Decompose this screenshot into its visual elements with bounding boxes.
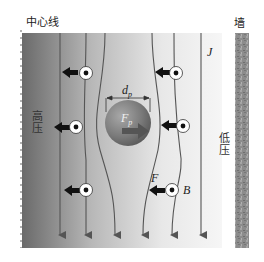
wall-strip bbox=[235, 33, 249, 248]
current-density-label: J bbox=[207, 46, 212, 58]
magnetic-field-label: B bbox=[183, 184, 190, 196]
wall-label: 墙 bbox=[234, 18, 245, 29]
flow-force-label: F bbox=[151, 172, 158, 184]
low-pressure-label: 低压 bbox=[218, 132, 229, 156]
particle-diameter-label: dp bbox=[122, 84, 132, 99]
centerline-label: 中心线 bbox=[26, 17, 59, 28]
high-pressure-label: 高压 bbox=[31, 110, 42, 134]
particle-force-label: Fp bbox=[121, 112, 132, 127]
diagram: 中心线 墙 高压 低压 J dp Fp F B bbox=[0, 0, 264, 262]
